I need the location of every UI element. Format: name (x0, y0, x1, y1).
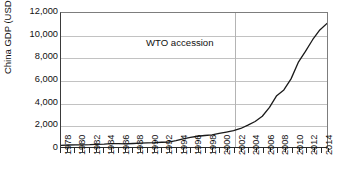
x-tick-label: 2004 (252, 135, 261, 155)
x-tick-label: 2014 (325, 135, 334, 155)
x-tick-label: 2010 (296, 135, 305, 155)
x-tick-label: 1990 (151, 135, 160, 155)
x-tick-label: 2006 (267, 135, 276, 155)
x-tick-label: 1996 (194, 135, 203, 155)
x-tick-label: 2002 (238, 135, 247, 155)
x-tick-label: 1986 (122, 135, 131, 155)
x-tick-label: 1992 (165, 135, 174, 155)
x-tick-label: 1980 (78, 135, 87, 155)
x-tick-label: 2008 (281, 135, 290, 155)
china-gdp-chart: China GDP (USD bn) 12,00010,0008,0006,00… (0, 0, 337, 189)
x-tick-label: 1994 (180, 135, 189, 155)
x-tick-label: 1978 (64, 135, 73, 155)
x-tick-label: 2000 (223, 135, 232, 155)
x-tick-label: 1982 (93, 135, 102, 155)
x-tick-label: 2012 (310, 135, 319, 155)
x-tick-label: 1984 (107, 135, 116, 155)
x-axis-tick-labels: 1978198019821984198619881990199219941996… (0, 0, 337, 189)
x-tick-label: 1988 (136, 135, 145, 155)
x-tick-label: 1998 (209, 135, 218, 155)
